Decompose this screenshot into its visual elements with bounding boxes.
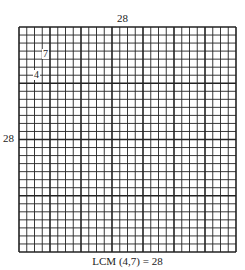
left-dimension-label: 28: [3, 133, 14, 144]
seven-block-label: 7: [42, 49, 49, 59]
lcm-grid: [0, 0, 245, 270]
lcm-caption: LCM (4,7) = 28: [19, 256, 236, 267]
four-block-label: 4: [33, 70, 40, 80]
top-dimension-label: 28: [0, 13, 245, 24]
